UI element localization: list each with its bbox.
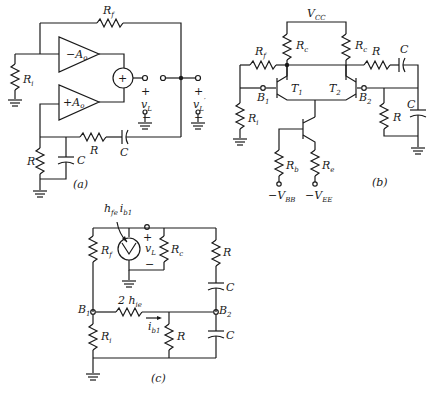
svg-text:Rb: Rb [285, 159, 299, 174]
svg-text:Rf: Rf [100, 244, 113, 259]
svg-text:Rc: Rc [170, 243, 183, 258]
svg-text:B1: B1 [77, 303, 91, 318]
resistor-ri [11, 64, 19, 90]
svg-text:B2: B2 [218, 304, 232, 319]
svg-text:B1: B1 [256, 91, 270, 106]
svg-text:−VEE: −VEE [305, 189, 332, 204]
svg-text:+: + [141, 85, 150, 98]
svg-text:R: R [176, 330, 185, 343]
svg-text:C: C [226, 329, 235, 342]
svg-text:R: R [89, 144, 98, 157]
svg-text:R: R [392, 111, 401, 124]
svg-text:−VBB: −VBB [268, 189, 295, 204]
caption-a: (a) [73, 178, 88, 191]
svg-text:B2: B2 [358, 91, 372, 106]
panel-b: VCC Rc Rc Rf R C T1 B1 [233, 7, 426, 204]
svg-text:C: C [77, 154, 86, 167]
caption-c: (c) [151, 372, 166, 385]
panel-a: Rf −Ao Ri +Ao + + vL − + vL′ − [8, 4, 206, 197]
svg-text:C: C [407, 98, 416, 111]
svg-text:hfeib1: hfeib1 [104, 202, 132, 217]
label-ri-a: Ri [22, 73, 34, 88]
resistor-rf [97, 19, 123, 27]
panel-c: hfeib1 Rf + vL − Rc R C [77, 202, 235, 385]
terminal-vl [143, 76, 148, 81]
svg-text:R: R [26, 155, 35, 168]
label-amp-pos: +Ao [63, 96, 84, 110]
svg-text:T2: T2 [329, 82, 341, 97]
circuit-figure: Rf −Ao Ri +Ao + + vL − + vL′ − [0, 0, 433, 393]
current-source-icon [118, 238, 140, 260]
label-amp-neg: −Ao [66, 48, 87, 62]
label-vcc: VCC [307, 7, 326, 22]
svg-text:Re: Re [321, 159, 334, 174]
svg-text:+: + [194, 85, 203, 98]
svg-text:Rc: Rc [295, 39, 308, 54]
svg-text:Ri: Ri [247, 112, 259, 127]
svg-text:Ri: Ri [100, 330, 112, 345]
svg-text:+: + [118, 72, 127, 85]
label-rf-a: Rf [102, 4, 115, 19]
svg-text:Rc: Rc [354, 39, 367, 54]
svg-text:−: − [194, 111, 203, 124]
svg-text:C: C [226, 281, 235, 294]
svg-text:R: R [371, 45, 380, 58]
svg-text:T1: T1 [291, 82, 303, 97]
svg-text:C: C [120, 146, 129, 159]
svg-text:C: C [400, 43, 409, 56]
caption-b: (b) [372, 176, 388, 189]
svg-text:ib1: ib1 [148, 320, 160, 335]
svg-text:Rf: Rf [254, 45, 267, 60]
svg-text:R: R [222, 246, 231, 259]
svg-text:−: − [145, 258, 154, 271]
svg-text:vL: vL [145, 242, 156, 257]
ground-icon [8, 100, 22, 106]
svg-text:2 hie: 2 hie [117, 294, 142, 309]
